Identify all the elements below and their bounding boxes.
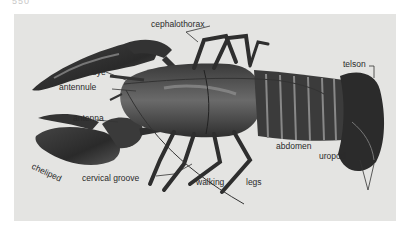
- page-number: 550: [12, 0, 30, 6]
- label-telson: telson: [343, 60, 366, 69]
- label-walking: walking: [196, 178, 224, 187]
- label-uropod: uropod: [319, 152, 345, 161]
- crayfish-photo: cephalothorax eye antennule antenna chel…: [14, 14, 396, 221]
- label-antenna: antenna: [73, 114, 104, 123]
- label-antennule: antennule: [59, 83, 96, 92]
- label-abdomen: abdomen: [276, 142, 311, 151]
- crayfish-illustration: [14, 14, 396, 221]
- label-cephalothorax: cephalothorax: [151, 20, 204, 29]
- label-cervical-groove: cervical groove: [82, 174, 139, 183]
- label-eye: eye: [92, 68, 106, 77]
- abdomen-shape: [254, 70, 352, 141]
- label-legs: legs: [246, 178, 262, 187]
